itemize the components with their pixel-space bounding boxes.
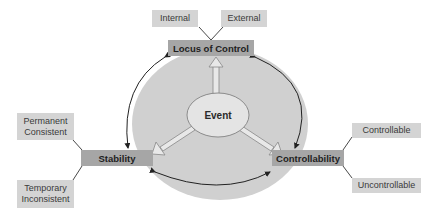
option-permanent-consistent: Permanent Consistent (17, 113, 74, 140)
option-external: External (221, 10, 267, 27)
connector-controllability-options (343, 137, 352, 178)
option-uncontrollable: Uncontrollable (352, 178, 421, 193)
option-temporary-inconsistent: Temporary Inconsistent (17, 180, 74, 208)
connector-locus-options (199, 27, 223, 40)
dimension-stability: Stability (81, 150, 153, 166)
option-controllable: Controllable (352, 123, 421, 138)
option-internal: Internal (152, 10, 198, 27)
dimension-controllability: Controllability (272, 150, 344, 166)
dimension-locus-of-control: Locus of Control (168, 40, 254, 56)
event-label: Event (187, 93, 249, 137)
